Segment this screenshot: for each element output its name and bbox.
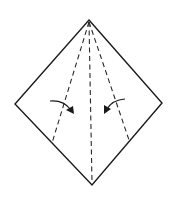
- right-valley-fold-line: [89, 22, 129, 140]
- paper-outline: [15, 20, 162, 185]
- fold-arrow-right-icon: [104, 99, 125, 114]
- diagram-canvas: [0, 0, 174, 200]
- origami-diagram: [0, 0, 174, 200]
- center-valley-fold-line: [89, 22, 92, 183]
